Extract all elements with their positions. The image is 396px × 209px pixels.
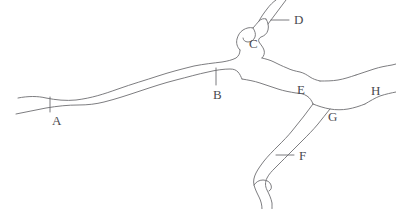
map-label-f: F xyxy=(299,149,306,162)
pool-c-east-shore xyxy=(259,19,269,58)
tributary-d-west-bank xyxy=(259,0,276,21)
branch-e-north-bank xyxy=(262,58,320,81)
river-network-drawing xyxy=(0,0,396,209)
map-label-h: H xyxy=(371,84,380,97)
map-label-b: B xyxy=(213,88,222,101)
main-channel-north-bank xyxy=(18,50,240,100)
map-label-a: A xyxy=(52,114,61,127)
map-label-c: C xyxy=(249,37,258,50)
map-label-d: D xyxy=(294,13,303,26)
pool-g-north-outline xyxy=(320,75,356,81)
map-label-g: G xyxy=(328,110,337,123)
outlet-h-north-bank xyxy=(356,64,396,75)
tributary-f-meander xyxy=(254,180,271,191)
outlet-h-south-bank xyxy=(365,92,396,104)
river-map-figure: A B C D E F G H xyxy=(0,0,396,209)
pool-g-south-outline xyxy=(313,104,365,110)
map-label-e: E xyxy=(297,83,305,96)
